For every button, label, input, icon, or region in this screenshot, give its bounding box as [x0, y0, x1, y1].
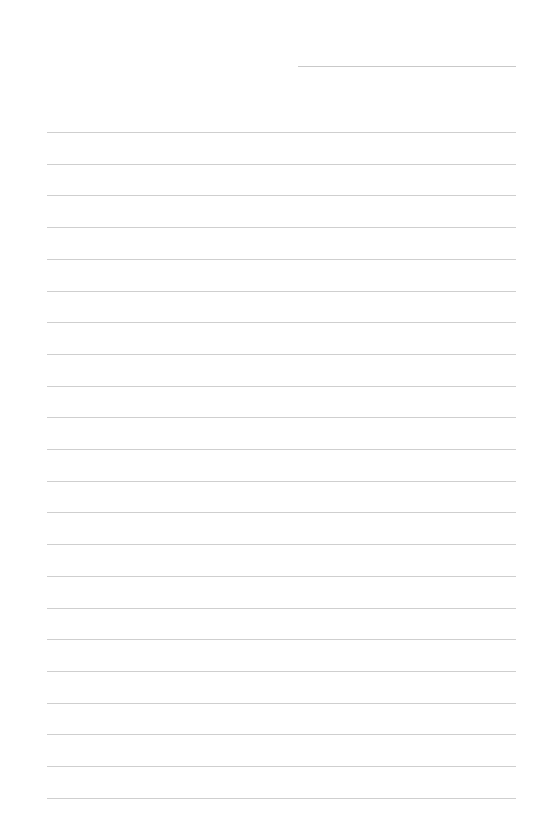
ruled-line — [47, 576, 516, 577]
ruled-line — [47, 512, 516, 513]
ruled-line — [47, 322, 516, 323]
ruled-line — [47, 132, 516, 133]
ruled-line — [47, 354, 516, 355]
ruled-line — [47, 608, 516, 609]
ruled-line — [47, 734, 516, 735]
ruled-line — [47, 291, 516, 292]
ruled-line — [47, 766, 516, 767]
ruled-line — [47, 544, 516, 545]
ruled-line — [47, 227, 516, 228]
ruled-line — [47, 671, 516, 672]
ruled-line — [47, 417, 516, 418]
ruled-line — [47, 798, 516, 799]
ruled-line — [47, 195, 516, 196]
ruled-line — [47, 703, 516, 704]
ruled-line — [47, 259, 516, 260]
ruled-line — [47, 449, 516, 450]
ruled-line — [47, 386, 516, 387]
ruled-line — [47, 639, 516, 640]
lined-paper-page — [0, 0, 539, 834]
ruled-line — [47, 164, 516, 165]
date-header-line — [298, 66, 516, 67]
ruled-line — [47, 481, 516, 482]
